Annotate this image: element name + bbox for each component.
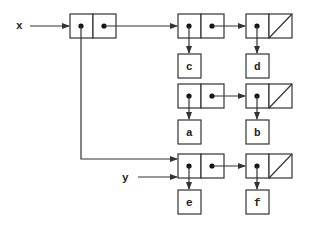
atom-c: c bbox=[178, 54, 201, 78]
atom-b: b bbox=[246, 120, 269, 144]
atom-a: a bbox=[178, 120, 201, 144]
variable-x-label: x bbox=[16, 20, 23, 32]
svg-text:b: b bbox=[254, 127, 261, 139]
pair-b bbox=[246, 84, 292, 108]
atom-f: f bbox=[246, 190, 269, 214]
pair-d bbox=[246, 14, 292, 38]
atom-d: d bbox=[246, 54, 269, 78]
svg-text:d: d bbox=[254, 61, 261, 73]
svg-text:e: e bbox=[186, 197, 193, 209]
x-car-arrow bbox=[81, 26, 177, 159]
svg-text:a: a bbox=[186, 127, 193, 139]
svg-text:c: c bbox=[186, 61, 193, 73]
atom-e: e bbox=[178, 190, 201, 214]
box-pointer-diagram: x c d bbox=[0, 0, 310, 228]
variable-y-label: y bbox=[122, 172, 129, 184]
pair-f bbox=[246, 154, 292, 178]
svg-text:f: f bbox=[254, 197, 261, 209]
